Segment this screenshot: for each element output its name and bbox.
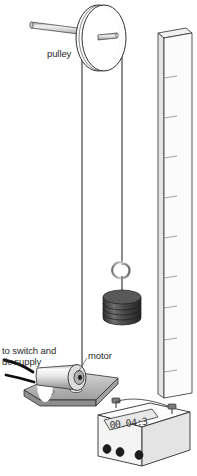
slotted-mass-stack — [103, 290, 141, 325]
timer-terminal-right — [168, 404, 176, 409]
support-rod-end-cap — [30, 22, 33, 28]
supply-wire-lower — [6, 375, 34, 382]
timer-terminal-left — [112, 398, 120, 403]
label-to-switch-and-dc-supply: to switch and dc supply — [2, 345, 56, 367]
timer-button-start[interactable] — [103, 445, 111, 454]
pulley-wheel — [76, 5, 126, 71]
apparatus-illustration — [0, 0, 197, 476]
motor-barrel-rear-cap — [36, 368, 37, 385]
ruler-left-edge — [158, 33, 164, 398]
ruler-scale — [158, 28, 192, 398]
timer-button-reset[interactable] — [135, 451, 143, 460]
ruler-front-face — [164, 33, 192, 398]
diagram-canvas: to switch and dc supply pulley motor 00.… — [0, 0, 197, 476]
motor-spindle-axle — [78, 375, 82, 380]
pulley-axle-cap — [116, 33, 119, 38]
mass-top-disc — [103, 290, 141, 304]
supply-label-line-2: dc supply — [2, 356, 56, 367]
load-assembly — [103, 262, 141, 325]
label-pulley: pulley — [47, 48, 71, 59]
label-motor: motor — [88, 350, 112, 361]
supply-label-line-1: to switch and — [2, 345, 56, 356]
timer-button-stop[interactable] — [116, 448, 124, 457]
